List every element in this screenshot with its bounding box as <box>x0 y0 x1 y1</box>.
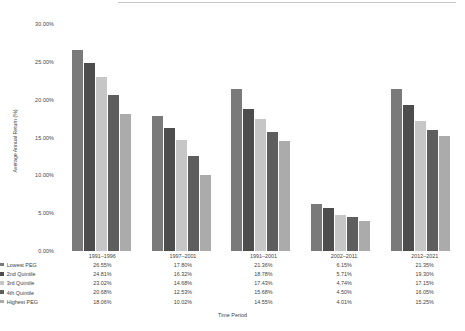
legend-swatch-icon <box>0 263 4 267</box>
bar <box>152 116 163 251</box>
table-cell-value: 17.15% <box>384 279 465 288</box>
table-row: Highest PEG18.06%10.02%14.55%4.01%15.25% <box>0 297 465 306</box>
y-axis-tick-label: 15.00% <box>35 135 54 141</box>
table-corner-cell <box>0 251 62 260</box>
bar <box>279 141 290 251</box>
legend-swatch-icon <box>0 290 4 294</box>
legend-item[interactable]: Lowest PEG <box>0 260 62 269</box>
bar <box>96 77 107 251</box>
x-axis-category-label: 1991–1996 <box>62 251 143 260</box>
bar <box>403 105 414 251</box>
bar <box>359 221 370 251</box>
table-cell-value: 21.35% <box>384 260 465 269</box>
legend-item-label: Lowest PEG <box>7 262 37 268</box>
table-cell-value: 26.55% <box>62 260 143 269</box>
bar <box>176 140 187 251</box>
legend-swatch-icon <box>0 300 4 304</box>
bar-group <box>231 24 290 251</box>
bar <box>415 121 426 251</box>
y-axis-tick-label: 10.00% <box>35 172 54 178</box>
table-cell-value: 6.15% <box>304 260 385 269</box>
bar <box>267 132 278 251</box>
table-cell-value: 19.30% <box>384 269 465 278</box>
table-cell-value: 10.02% <box>143 297 224 306</box>
table-cell-value: 23.02% <box>62 279 143 288</box>
bar <box>335 215 346 251</box>
table-header-row: 1991–19961997–20011991–20012002–20112012… <box>0 251 465 260</box>
bar <box>323 208 334 251</box>
table-cell-value: 4.74% <box>304 279 385 288</box>
bar <box>188 156 199 251</box>
table-cell-value: 12.53% <box>143 288 224 297</box>
bar <box>231 89 242 251</box>
legend-item[interactable]: Highest PEG <box>0 297 62 306</box>
x-axis-category-label: 1991–2001 <box>223 251 304 260</box>
x-axis-title: Time Period <box>0 312 465 318</box>
x-axis-category-label: 2002–2011 <box>304 251 385 260</box>
table-cell-value: 24.81% <box>62 269 143 278</box>
bar <box>311 204 322 251</box>
table-cell-value: 15.25% <box>384 297 465 306</box>
legend-swatch-icon <box>0 281 4 285</box>
legend-item-label: Highest PEG <box>7 299 38 305</box>
table-cell-value: 20.68% <box>62 288 143 297</box>
table-cell-value: 18.78% <box>223 269 304 278</box>
chart-page: Average Annual Return (%) 0.00%5.00%10.0… <box>0 0 465 331</box>
table-row: Lowest PEG26.55%17.80%21.36%6.15%21.35% <box>0 260 465 269</box>
legend-item-label: 3rd Quintile <box>7 280 35 286</box>
y-axis-tick-label: 25.00% <box>35 59 54 65</box>
x-axis-category-label: 2012–2021 <box>384 251 465 260</box>
bar <box>391 89 402 251</box>
bar <box>164 128 175 251</box>
bar <box>439 136 450 251</box>
bar <box>255 119 266 251</box>
table-cell-value: 21.36% <box>223 260 304 269</box>
bar <box>84 63 95 251</box>
y-axis-title: Average Annual Return (%) <box>12 109 18 172</box>
table-row: 2nd Quintile24.81%16.32%18.78%5.71%19.30… <box>0 269 465 278</box>
data-table: 1991–19961997–20011991–20012002–20112012… <box>0 251 465 306</box>
bar-group <box>72 24 131 251</box>
bar <box>347 217 358 251</box>
bar <box>120 114 131 251</box>
legend-item-label: 2nd Quintile <box>7 271 36 277</box>
table-row: 3rd Quintile23.02%14.68%17.43%4.74%17.15… <box>0 279 465 288</box>
y-axis-tick-label: 5.00% <box>38 210 54 216</box>
table-cell-value: 17.43% <box>223 279 304 288</box>
plot-area <box>62 24 460 251</box>
legend-item[interactable]: 4th Quintile <box>0 288 62 297</box>
table-cell-value: 5.71% <box>304 269 385 278</box>
legend-item[interactable]: 3rd Quintile <box>0 279 62 288</box>
y-axis-tick-label: 30.00% <box>35 21 54 27</box>
y-axis-tick-label: 20.00% <box>35 97 54 103</box>
table-cell-value: 17.80% <box>143 260 224 269</box>
x-axis-category-label: 1997–2001 <box>143 251 224 260</box>
legend-swatch-icon <box>0 272 4 276</box>
bar <box>72 50 83 251</box>
legend-item-label: 4th Quintile <box>7 290 34 296</box>
bars-layer <box>62 24 460 251</box>
table-cell-value: 4.01% <box>304 297 385 306</box>
table-cell-value: 18.06% <box>62 297 143 306</box>
table-cell-value: 15.68% <box>223 288 304 297</box>
top-divider <box>118 2 456 3</box>
bar <box>243 109 254 251</box>
table-cell-value: 16.05% <box>384 288 465 297</box>
bar-group <box>152 24 211 251</box>
bar <box>108 95 119 251</box>
table-cell-value: 14.68% <box>143 279 224 288</box>
bar <box>200 175 211 251</box>
table-cell-value: 14.55% <box>223 297 304 306</box>
legend-item[interactable]: 2nd Quintile <box>0 269 62 278</box>
bar-group <box>391 24 450 251</box>
table-cell-value: 16.32% <box>143 269 224 278</box>
bar-group <box>311 24 370 251</box>
table-cell-value: 4.50% <box>304 288 385 297</box>
table-row: 4th Quintile20.68%12.53%15.68%4.50%16.05… <box>0 288 465 297</box>
bar <box>427 130 438 251</box>
y-axis: Average Annual Return (%) 0.00%5.00%10.0… <box>0 24 60 251</box>
